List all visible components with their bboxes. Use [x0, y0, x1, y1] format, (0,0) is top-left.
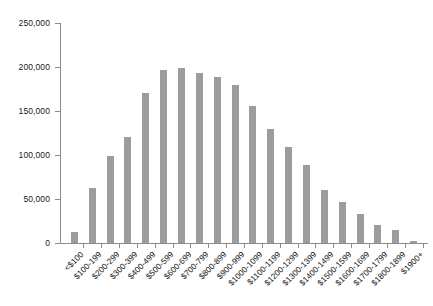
x-tick-mark: [315, 244, 316, 248]
x-tick-mark: [244, 244, 245, 248]
x-tick-mark: [173, 244, 174, 248]
y-tick-mark: [55, 155, 60, 156]
y-tick-mark: [55, 23, 60, 24]
y-tick-mark: [55, 111, 60, 112]
x-tick-mark: [333, 244, 334, 248]
histogram-chart: 050,000100,000150,000200,000250,000 <$10…: [0, 0, 433, 306]
x-tick-mark: [137, 244, 138, 248]
x-tick-mark: [226, 244, 227, 248]
x-tick-mark: [208, 244, 209, 248]
x-tick-mark: [155, 244, 156, 248]
x-tick-mark: [423, 244, 424, 248]
x-tick-mark: [351, 244, 352, 248]
x-tick-mark: [387, 244, 388, 248]
x-tick-mark: [119, 244, 120, 248]
x-tick-mark: [280, 244, 281, 248]
y-tick-mark: [55, 243, 60, 244]
x-tick-mark: [405, 244, 406, 248]
x-tick-mark: [190, 244, 191, 248]
y-tick-mark: [55, 67, 60, 68]
x-tick-mark: [101, 244, 102, 248]
x-tick-mark: [83, 244, 84, 248]
x-axis: <$100$100-199$200-299$300-399$400-499$50…: [0, 0, 433, 306]
x-tick-mark: [298, 244, 299, 248]
y-tick-mark: [55, 199, 60, 200]
x-tick-mark: [369, 244, 370, 248]
x-tick-mark: [262, 244, 263, 248]
